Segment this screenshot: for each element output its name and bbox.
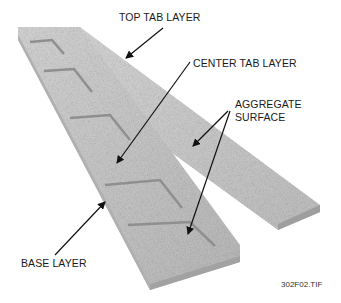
label-surface: SURFACE xyxy=(235,111,285,123)
arrow-top-tab xyxy=(126,28,163,58)
figure-caption: 302F02.TIF xyxy=(281,280,322,289)
label-top-tab-layer: TOP TAB LAYER xyxy=(119,11,200,23)
label-base-layer: BASE LAYER xyxy=(21,257,87,269)
label-center-tab-layer: CENTER TAB LAYER xyxy=(193,57,297,69)
label-aggregate: AGGREGATE xyxy=(235,98,302,110)
arrow-base xyxy=(55,202,105,255)
